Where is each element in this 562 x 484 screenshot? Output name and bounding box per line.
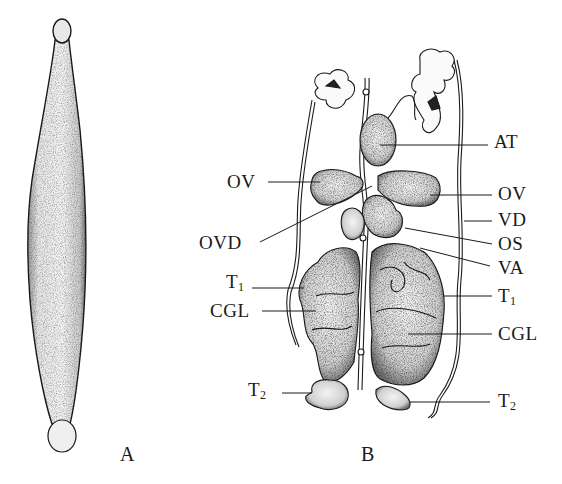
left-coiled-gland [315, 70, 355, 109]
label-va: VA [498, 258, 524, 277]
label-t1-right-base: T [498, 285, 510, 306]
label-ovd: OVD [199, 233, 242, 252]
label-t1-right-sub: 1 [510, 294, 517, 308]
label-t2-right-base: T [498, 390, 510, 411]
label-t2-left-sub: 2 [260, 388, 267, 402]
panel-label-a: A [120, 444, 135, 464]
right-coiled-gland [412, 49, 455, 132]
posterior-bulb [48, 420, 76, 452]
label-cgl-left: CGL [210, 301, 250, 320]
anterior-bulb [53, 19, 71, 43]
organ-t2-left [306, 380, 349, 410]
label-t1-left: T1 [226, 272, 245, 293]
label-at: AT [494, 132, 518, 151]
panel-label-b: B [361, 444, 375, 464]
label-os: OS [498, 234, 523, 253]
label-cgl-right: CGL [498, 324, 538, 343]
panel-a-body [28, 19, 88, 452]
label-t2-left-base: T [248, 379, 260, 400]
label-ov-right: OV [498, 184, 526, 203]
leader-os [405, 228, 492, 244]
label-t2-right: T2 [498, 391, 517, 412]
label-t1-left-base: T [226, 271, 238, 292]
organ-left-small-lobe [341, 208, 364, 239]
label-ov-left: OV [227, 172, 255, 191]
figure-canvas [0, 0, 562, 484]
label-t2-left: T2 [248, 380, 267, 401]
label-t2-right-sub: 2 [510, 399, 517, 413]
label-t1-right: T1 [498, 286, 517, 307]
organ-t2-right [376, 386, 410, 410]
label-vd: VD [498, 210, 526, 229]
label-t1-left-sub: 1 [238, 280, 245, 294]
